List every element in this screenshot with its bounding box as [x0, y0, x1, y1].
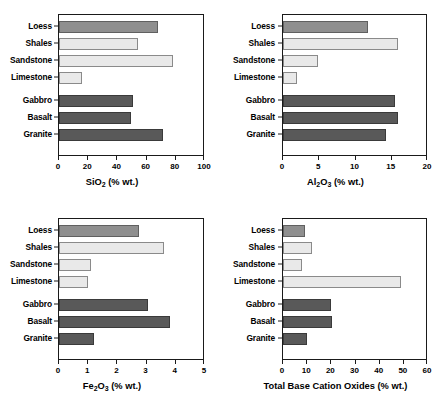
bar-shales: [59, 242, 164, 254]
y-tick: [278, 133, 282, 134]
y-tick: [278, 247, 282, 248]
x-tick-label: 1: [85, 367, 89, 375]
category-label-shales: Shales: [26, 243, 52, 251]
bar-basalt: [59, 316, 170, 328]
y-tick: [54, 116, 58, 117]
x-tick: [116, 360, 117, 364]
x-tick-label: 5: [316, 163, 320, 171]
category-label-limestone: Limestone: [11, 277, 52, 285]
x-tick: [203, 156, 204, 160]
category-label-shales: Shales: [249, 243, 275, 251]
x-tick-label: 3: [143, 367, 147, 375]
bar-loess: [59, 225, 139, 237]
x-tick-label: 2: [114, 367, 118, 375]
plot-area: [282, 218, 427, 360]
bar-gabbro: [283, 299, 331, 311]
x-tick-label: 50: [398, 367, 407, 375]
bar-sandstone: [59, 259, 91, 271]
x-tick: [116, 156, 117, 160]
y-tick: [278, 26, 282, 27]
x-axis-title: Fe2O3 (% wt.): [0, 382, 224, 391]
category-label-limestone: Limestone: [11, 73, 52, 81]
bar-shales: [283, 38, 398, 50]
x-tick: [175, 360, 176, 364]
category-label-gabbro: Gabbro: [246, 96, 275, 104]
category-label-basalt: Basalt: [27, 317, 52, 325]
x-tick-label: 0: [56, 163, 60, 171]
x-axis-title: Total Base Cation Oxides (% wt.): [224, 382, 447, 391]
x-axis-title: Al2O3 (% wt.): [224, 178, 447, 187]
bar-granite: [59, 129, 163, 141]
x-tick-label: 60: [141, 163, 150, 171]
y-tick: [54, 303, 58, 304]
y-tick: [54, 99, 58, 100]
x-tick-label: 20: [83, 163, 92, 171]
y-tick: [54, 77, 58, 78]
bar-limestone: [59, 72, 82, 84]
x-tick: [58, 156, 59, 160]
x-tick-label: 5: [202, 367, 206, 375]
category-label-granite: Granite: [23, 130, 52, 138]
x-tick-label: 0: [56, 367, 60, 375]
x-tick: [330, 360, 331, 364]
x-tick-label: 30: [350, 367, 359, 375]
category-label-sandstone: Sandstone: [10, 260, 52, 268]
x-tick: [146, 156, 147, 160]
category-label-shales: Shales: [26, 39, 52, 47]
y-tick: [278, 303, 282, 304]
bar-gabbro: [59, 299, 148, 311]
bar-loess: [283, 21, 368, 33]
x-tick: [355, 360, 356, 364]
x-tick-label: 15: [386, 163, 395, 171]
category-label-basalt: Basalt: [27, 113, 52, 121]
bar-sandstone: [283, 55, 318, 67]
y-tick: [54, 264, 58, 265]
bar-granite: [283, 129, 386, 141]
bar-sandstone: [283, 259, 302, 271]
category-label-loess: Loess: [28, 22, 52, 30]
category-label-loess: Loess: [251, 22, 275, 30]
plot-area: [58, 218, 204, 360]
category-label-loess: Loess: [28, 226, 52, 234]
y-tick: [278, 281, 282, 282]
x-tick-label: 100: [197, 163, 210, 171]
category-label-sandstone: Sandstone: [233, 260, 275, 268]
bar-limestone: [59, 276, 88, 288]
bar-gabbro: [59, 95, 133, 107]
bar-shales: [59, 38, 138, 50]
x-tick-label: 60: [423, 367, 432, 375]
y-tick: [278, 230, 282, 231]
x-tick-label: 80: [170, 163, 179, 171]
category-label-sandstone: Sandstone: [233, 56, 275, 64]
category-label-loess: Loess: [251, 226, 275, 234]
x-tick: [306, 360, 307, 364]
bar-granite: [283, 333, 307, 345]
y-tick: [278, 99, 282, 100]
y-tick: [278, 60, 282, 61]
panel-sio2: LoessShalesSandstoneLimestoneGabbroBasal…: [0, 0, 224, 204]
x-tick-label: 0: [280, 367, 284, 375]
bar-gabbro: [283, 95, 395, 107]
y-tick: [278, 116, 282, 117]
x-tick: [318, 156, 319, 160]
x-tick-label: 20: [326, 367, 335, 375]
figure-grid: LoessShalesSandstoneLimestoneGabbroBasal…: [0, 0, 447, 409]
category-label-gabbro: Gabbro: [23, 300, 52, 308]
x-tick-label: 20: [423, 163, 432, 171]
x-tick: [282, 360, 283, 364]
bar-limestone: [283, 276, 401, 288]
category-label-gabbro: Gabbro: [23, 96, 52, 104]
x-tick: [355, 156, 356, 160]
x-tick: [379, 360, 380, 364]
x-axis-title: SiO2 (% wt.): [0, 178, 224, 187]
y-tick: [278, 43, 282, 44]
panel-al2o3: LoessShalesSandstoneLimestoneGabbroBasal…: [224, 0, 447, 204]
x-tick: [426, 156, 427, 160]
bar-granite: [59, 333, 94, 345]
bar-basalt: [283, 316, 332, 328]
plot-area: [282, 14, 427, 156]
x-tick: [87, 360, 88, 364]
x-tick: [146, 360, 147, 364]
y-tick: [54, 247, 58, 248]
x-tick: [58, 360, 59, 364]
